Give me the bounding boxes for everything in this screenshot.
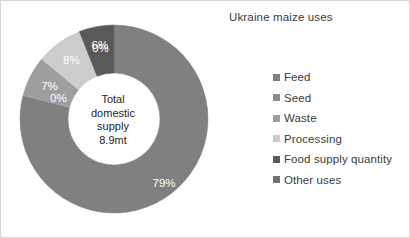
donut-chart: 79%0%7%8%6%0%: [17, 22, 211, 216]
legend-swatch-icon: [273, 135, 280, 142]
legend-swatch-icon: [273, 156, 280, 163]
legend-item-label: Feed: [284, 71, 311, 83]
slice-data-label: 0%: [50, 92, 67, 104]
slice-data-label: 79%: [152, 177, 175, 189]
legend-swatch-icon: [273, 115, 280, 122]
chart-legend: FeedSeedWasteProcessingFood supply quant…: [273, 67, 405, 190]
legend-item[interactable]: Feed: [273, 67, 405, 88]
chart-figure: Ukraine maize uses 79%0%7%8%6%0% Total d…: [0, 0, 410, 238]
legend-swatch-icon: [273, 176, 280, 183]
legend-item[interactable]: Food supply quantity: [273, 149, 405, 170]
legend-swatch-icon: [273, 74, 280, 81]
legend-item[interactable]: Processing: [273, 129, 405, 150]
legend-item-label: Seed: [284, 92, 311, 104]
slice-data-label: 8%: [63, 54, 80, 66]
legend-item[interactable]: Waste: [273, 108, 405, 129]
legend-item-label: Processing: [284, 133, 342, 145]
donut-slices: [20, 25, 208, 213]
legend-item-label: Other uses: [284, 174, 341, 186]
slice-data-label: 7%: [41, 80, 58, 92]
chart-title: Ukraine maize uses: [229, 11, 333, 23]
legend-item-label: Food supply quantity: [284, 153, 392, 165]
legend-item[interactable]: Other uses: [273, 170, 405, 191]
legend-item-label: Waste: [284, 112, 317, 124]
slice-data-label: 0%: [92, 42, 109, 54]
legend-item[interactable]: Seed: [273, 88, 405, 109]
legend-swatch-icon: [273, 94, 280, 101]
donut-svg: 79%0%7%8%6%0%: [17, 22, 211, 216]
